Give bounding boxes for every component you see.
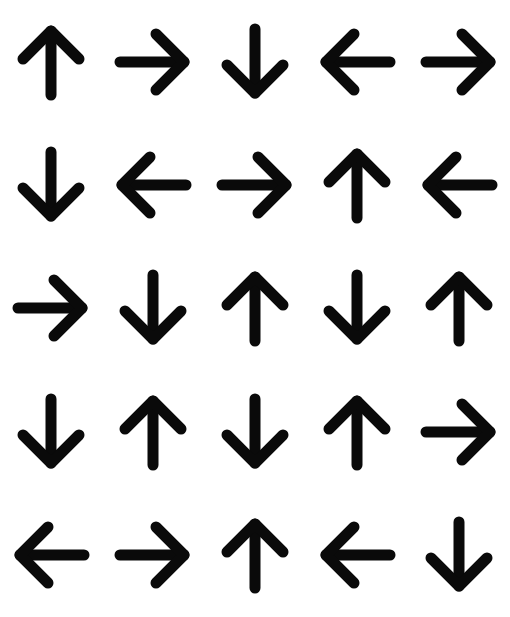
arrow-left-icon [420,146,498,224]
arrow-down-icon [12,146,90,224]
grid-cell [0,123,102,246]
grid-cell [0,494,102,617]
grid-cell [204,370,306,493]
arrow-down-icon [114,269,192,347]
arrow-grid [0,0,510,617]
grid-cell [306,123,408,246]
arrow-right-icon [114,516,192,594]
grid-cell [102,494,204,617]
arrow-left-icon [114,146,192,224]
grid-cell [204,0,306,123]
arrow-up-icon [216,269,294,347]
grid-cell [408,0,510,123]
grid-cell [204,247,306,370]
arrow-right-icon [420,23,498,101]
grid-cell [204,494,306,617]
grid-cell [306,494,408,617]
arrow-down-icon [12,393,90,471]
arrow-up-icon [420,269,498,347]
arrow-left-icon [12,516,90,594]
grid-cell [0,0,102,123]
arrow-up-icon [12,23,90,101]
arrow-down-icon [216,23,294,101]
grid-cell [408,494,510,617]
grid-cell [0,247,102,370]
arrow-up-icon [318,146,396,224]
grid-cell [0,370,102,493]
arrow-right-icon [216,146,294,224]
arrow-right-icon [420,393,498,471]
grid-cell [306,247,408,370]
grid-cell [408,123,510,246]
arrow-right-icon [114,23,192,101]
grid-cell [102,247,204,370]
grid-cell [408,370,510,493]
arrow-up-icon [114,393,192,471]
grid-cell [408,247,510,370]
arrow-left-icon [318,23,396,101]
arrow-down-icon [216,393,294,471]
arrow-down-icon [420,516,498,594]
grid-cell [102,0,204,123]
grid-cell [306,0,408,123]
arrow-down-icon [318,269,396,347]
arrow-up-icon [216,516,294,594]
grid-cell [306,370,408,493]
arrow-up-icon [318,393,396,471]
arrow-left-icon [318,516,396,594]
grid-cell [102,370,204,493]
grid-cell [102,123,204,246]
grid-cell [204,123,306,246]
arrow-right-icon [12,269,90,347]
